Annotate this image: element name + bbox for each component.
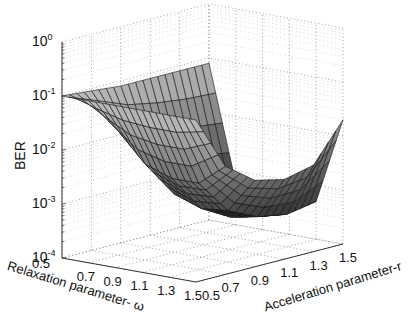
- z-tick-label: 10-2: [32, 140, 56, 157]
- z-axis-title: BER: [12, 141, 28, 170]
- y-tick-label: 0.7: [221, 280, 239, 295]
- y-tick-label: 0.5: [202, 288, 220, 303]
- x-tick-label: 1.5: [184, 288, 202, 303]
- y-tick-label: 1.1: [280, 265, 298, 280]
- z-tick-label: 100: [32, 32, 53, 49]
- x-tick-label: 1.3: [157, 283, 175, 298]
- ber-surface: [62, 63, 343, 217]
- y-tick-label: 1.5: [339, 250, 357, 265]
- x-tick-label: 1.1: [130, 278, 148, 293]
- z-tick-label: 10-1: [32, 86, 56, 103]
- z-tick-label: 10-3: [32, 194, 56, 211]
- y-tick-label: 0.9: [251, 273, 269, 288]
- y-tick-label: 1.3: [310, 258, 328, 273]
- x-tick-label: 0.9: [104, 274, 122, 289]
